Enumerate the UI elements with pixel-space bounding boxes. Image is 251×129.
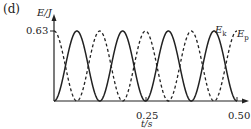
ep-curve xyxy=(54,31,237,101)
ek-curve xyxy=(54,31,237,101)
energy-time-chart xyxy=(0,0,251,129)
axes xyxy=(50,14,249,104)
